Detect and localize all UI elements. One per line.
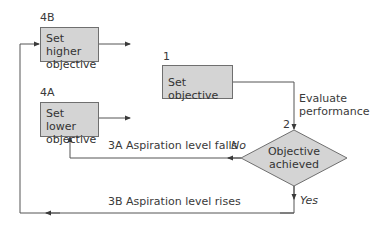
node-number-2: 2 — [283, 118, 290, 131]
diamond-label-line2: achieved — [259, 158, 329, 171]
evaluate-label-line2: performance — [299, 105, 369, 118]
set-higher-objective-box: Set higher objective — [40, 27, 99, 62]
rises-label: 3B Aspiration level rises — [108, 195, 241, 208]
diamond-label-line1: Objective — [259, 145, 329, 158]
box-label-line1: Set higher — [46, 32, 93, 58]
node-number-4b: 4B — [40, 11, 55, 24]
box-label-line2: objective — [46, 58, 93, 71]
box-label-line2: objective — [46, 133, 93, 146]
evaluate-label-line1: Evaluate — [299, 92, 347, 105]
box-label: Set objective — [168, 76, 227, 102]
node-number-1: 1 — [163, 50, 170, 63]
no-label: No — [231, 139, 246, 152]
yes-label: Yes — [300, 194, 318, 207]
set-lower-objective-box: Set lower objective — [40, 102, 99, 137]
set-objective-box: Set objective — [162, 65, 233, 99]
node-number-4a: 4A — [40, 86, 55, 99]
falls-label: 3A Aspiration level falls — [108, 139, 237, 152]
box-label-line1: Set lower — [46, 107, 93, 133]
diamond-label: Objective achieved — [259, 145, 329, 171]
